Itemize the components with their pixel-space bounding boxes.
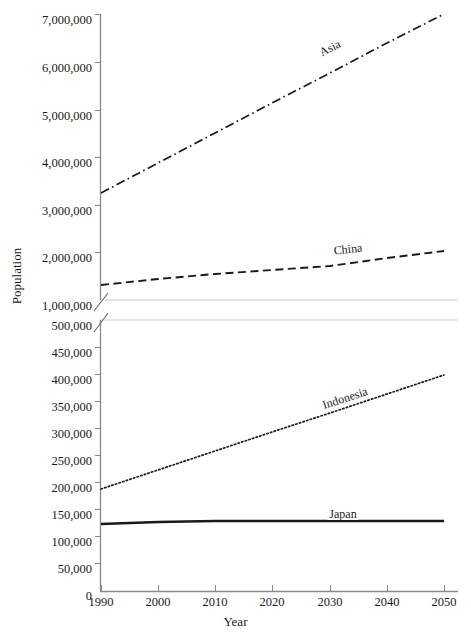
- x-tick-marks: [102, 585, 445, 591]
- series-line-asia: [101, 14, 444, 193]
- y-tick-marks-lower: [95, 348, 100, 564]
- series-label-china: China: [331, 241, 365, 256]
- y-tick-marks-upper: [95, 15, 100, 253]
- chart-figure: 7,000,000 6,000,000 5,000,000 4,000,000 …: [0, 0, 471, 633]
- plot-area: [0, 0, 471, 633]
- series-line-china: [101, 251, 444, 285]
- series-line-japan: [101, 521, 444, 524]
- series-label-japan: Japan: [327, 508, 358, 520]
- series-line-indonesia: [101, 375, 444, 489]
